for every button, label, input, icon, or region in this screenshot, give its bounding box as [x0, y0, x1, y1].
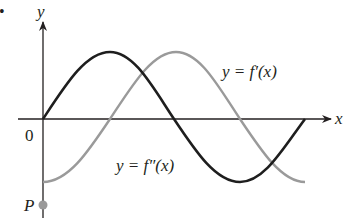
derivative-graph: • y x 0 y = f′(x) y = f″(x) P: [0, 0, 347, 220]
x-axis-label: x: [334, 109, 343, 128]
point-p: [39, 201, 48, 210]
y-axis-label: y: [35, 2, 45, 21]
point-p-label: P: [23, 196, 34, 215]
origin-label: 0: [25, 126, 34, 145]
f-prime-label: y = f′(x): [220, 62, 277, 81]
f-double-prime-label: y = f″(x): [114, 156, 175, 175]
list-bullet: •: [0, 3, 5, 20]
